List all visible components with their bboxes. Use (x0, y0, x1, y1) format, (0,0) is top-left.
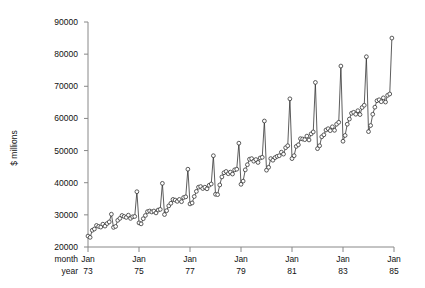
data-point-marker (288, 97, 292, 101)
data-point-marker (318, 144, 322, 148)
data-point-marker (347, 117, 351, 121)
month-row-label: month (54, 254, 78, 264)
y-tick-label: 50000 (54, 146, 78, 156)
data-point-marker (313, 81, 317, 85)
x-tick-year-label: 83 (338, 266, 348, 276)
data-point-marker (267, 165, 271, 169)
data-point-marker (192, 195, 196, 199)
data-point-marker (367, 130, 371, 134)
data-point-marker (231, 172, 235, 176)
data-point-marker (109, 212, 113, 216)
data-point-marker (163, 213, 167, 217)
year-row-label: year (61, 266, 78, 276)
data-point-marker (114, 225, 118, 229)
data-point-marker (358, 113, 362, 117)
data-point-marker (373, 105, 377, 109)
data-point-marker (92, 227, 96, 231)
data-point-marker (384, 100, 388, 104)
data-point-marker (262, 119, 266, 123)
data-point-marker (286, 144, 290, 148)
data-point-marker (390, 36, 394, 40)
y-tick-label: 60000 (54, 113, 78, 123)
y-tick-label: 40000 (54, 178, 78, 188)
data-point-marker (277, 154, 281, 158)
data-point-marker (165, 209, 169, 213)
data-point-marker (186, 167, 190, 171)
x-tick-year-label: 79 (236, 266, 246, 276)
y-tick-label: 70000 (54, 81, 78, 91)
data-point-marker (245, 163, 249, 167)
data-point-marker (362, 103, 366, 107)
data-point-marker (305, 134, 309, 138)
data-point-marker (243, 168, 247, 172)
data-point-marker (354, 112, 358, 116)
data-point-marker (381, 96, 385, 100)
x-tick-month-label: Jan (132, 254, 146, 264)
y-axis-title: $ millions (9, 130, 19, 165)
data-point-marker (194, 189, 198, 193)
chart-container: 2000030000400005000060000700008000090000… (0, 0, 425, 288)
data-point-marker (371, 112, 375, 116)
data-point-marker (220, 175, 224, 179)
y-tick-label: 20000 (54, 242, 78, 252)
data-point-marker (216, 193, 220, 197)
data-point-marker (343, 134, 347, 138)
x-tick-year-label: 77 (185, 266, 195, 276)
data-point-marker (364, 55, 368, 59)
data-point-marker (190, 201, 194, 205)
data-point-marker (139, 222, 143, 226)
data-point-marker (107, 220, 111, 224)
data-point-marker (339, 64, 343, 68)
data-point-marker (328, 129, 332, 133)
x-tick-year-label: 75 (134, 266, 144, 276)
data-point-marker (88, 235, 92, 239)
data-point-marker (180, 200, 184, 204)
data-point-marker (241, 179, 245, 183)
data-point-marker (237, 141, 241, 145)
x-tick-month-label: Jan (387, 254, 401, 264)
data-point-marker (133, 215, 137, 219)
x-tick-year-label: 85 (389, 266, 399, 276)
data-point-marker (337, 120, 341, 124)
y-tick-label: 30000 (54, 210, 78, 220)
data-point-marker (296, 143, 300, 147)
data-point-marker (218, 183, 222, 187)
data-point-marker (307, 138, 311, 142)
x-tick-month-label: Jan (183, 254, 197, 264)
data-point-marker (341, 139, 345, 143)
data-point-marker (333, 128, 337, 132)
data-point-marker (135, 190, 139, 194)
data-point-marker (260, 155, 264, 159)
data-point-marker (158, 207, 162, 211)
y-tick-label: 90000 (54, 17, 78, 27)
data-point-marker (209, 182, 213, 186)
data-point-marker (235, 167, 239, 171)
data-point-marker (184, 195, 188, 199)
data-point-marker (303, 138, 307, 142)
data-point-marker (369, 124, 373, 128)
data-point-marker (379, 100, 383, 104)
x-tick-month-label: Jan (336, 254, 350, 264)
data-point-marker (256, 161, 260, 165)
x-tick-year-label: 73 (83, 266, 93, 276)
data-point-marker (282, 152, 286, 156)
data-point-marker (169, 201, 173, 205)
x-tick-year-label: 81 (287, 266, 297, 276)
data-point-marker (311, 130, 315, 134)
x-tick-month-label: Jan (285, 254, 299, 264)
data-point-marker (345, 122, 349, 126)
x-tick-month-label: Jan (81, 254, 95, 264)
data-point-marker (160, 181, 164, 185)
data-point-marker (211, 154, 215, 158)
data-point-marker (330, 125, 334, 129)
data-point-marker (356, 109, 360, 113)
retail-sales-line-chart: 2000030000400005000060000700008000090000… (0, 0, 425, 288)
data-point-marker (388, 92, 392, 96)
data-point-marker (322, 133, 326, 137)
x-tick-month-label: Jan (234, 254, 248, 264)
data-point-marker (292, 154, 296, 158)
y-tick-label: 80000 (54, 49, 78, 59)
data-point-marker (143, 214, 147, 218)
data-point-marker (205, 187, 209, 191)
